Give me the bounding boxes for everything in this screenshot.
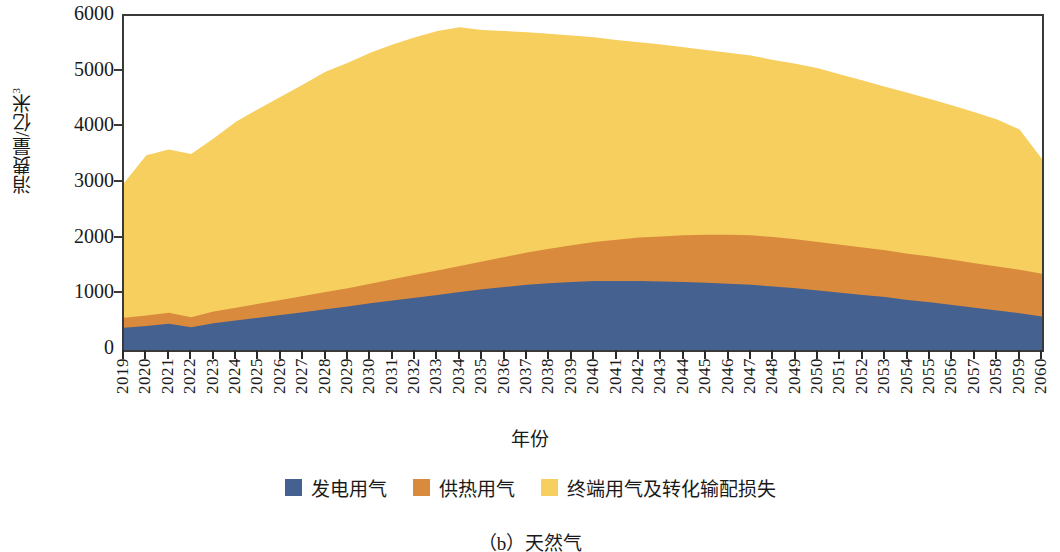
legend-swatch-icon	[285, 479, 302, 496]
y-axis-title: 消费量/亿米3	[6, 88, 32, 194]
x-tick-label: 2035	[472, 358, 489, 394]
x-tick-label: 2024	[226, 358, 243, 394]
figure-caption: （b）天然气	[0, 528, 1060, 552]
legend-swatch-icon	[413, 479, 430, 496]
y-tick-label: 1000	[52, 281, 114, 301]
x-tick-label: 2036	[495, 358, 512, 394]
x-tick-label: 2056	[942, 358, 959, 394]
x-tick-label: 2043	[651, 358, 668, 394]
x-tick-label: 2025	[248, 358, 265, 394]
legend-item[interactable]: 供热用气	[413, 474, 515, 501]
x-tick-label: 2020	[136, 358, 153, 394]
x-tick-label: 2033	[427, 358, 444, 394]
x-tick-label: 2046	[719, 358, 736, 394]
y-tick-label: 2000	[52, 226, 114, 246]
legend-item[interactable]: 发电用气	[285, 474, 387, 501]
x-tick-label: 2047	[741, 358, 758, 394]
x-tick-label: 2038	[539, 358, 556, 394]
x-tick-label: 2030	[360, 358, 377, 394]
x-tick-label: 2034	[450, 358, 467, 394]
y-tick-mark	[114, 180, 124, 182]
x-tick-label: 2019	[114, 358, 131, 394]
x-tick-label: 2050	[808, 358, 825, 394]
y-tick-mark	[114, 291, 124, 293]
x-tick-label: 2023	[204, 358, 221, 394]
x-tick-label: 2059	[1010, 358, 1027, 394]
x-tick-label: 2040	[584, 358, 601, 394]
x-tick-label: 2039	[562, 358, 579, 394]
x-tick-label: 2054	[898, 358, 915, 394]
x-axis-tick-labels: 2019202020212022202320242025202620272028…	[0, 358, 1060, 418]
x-tick-label: 2027	[293, 358, 310, 394]
y-tick-label: 6000	[52, 3, 114, 23]
y-tick-label: 3000	[52, 170, 114, 190]
x-tick-label: 2037	[517, 358, 534, 394]
legend-item[interactable]: 终端用气及转化输配损失	[541, 474, 776, 501]
legend-label: 供热用气	[439, 474, 515, 501]
x-tick-label: 2031	[383, 358, 400, 394]
chart-legend: 发电用气供热用气终端用气及转化输配损失	[0, 474, 1060, 501]
x-tick-label: 2042	[629, 358, 646, 394]
y-tick-label: 0	[52, 337, 114, 357]
x-tick-label: 2044	[674, 358, 691, 394]
x-tick-label: 2052	[853, 358, 870, 394]
x-tick-label: 2058	[987, 358, 1004, 394]
x-tick-label: 2032	[405, 358, 422, 394]
x-tick-label: 2057	[965, 358, 982, 394]
y-axis-tick-labels: 0100020003000400050006000	[48, 0, 114, 360]
y-tick-label: 4000	[52, 114, 114, 134]
x-tick-label: 2021	[159, 358, 176, 394]
x-tick-label: 2048	[763, 358, 780, 394]
x-tick-label: 2041	[607, 358, 624, 394]
legend-label: 终端用气及转化输配损失	[567, 474, 776, 501]
x-tick-label: 2028	[316, 358, 333, 394]
y-axis-title-superscript: 3	[10, 88, 22, 94]
x-tick-label: 2055	[920, 358, 937, 394]
stacked-area-chart	[124, 16, 1042, 350]
plot-area	[122, 14, 1044, 352]
y-tick-mark	[114, 236, 124, 238]
x-tick-label: 2053	[875, 358, 892, 394]
figure-natural-gas-consumption: 消费量/亿米3 0100020003000400050006000 201920…	[0, 0, 1060, 552]
y-axis-title-text: 消费量/亿米	[12, 94, 33, 194]
y-tick-mark	[114, 69, 124, 71]
legend-swatch-icon	[541, 479, 558, 496]
x-tick-label: 2051	[830, 358, 847, 394]
legend-label: 发电用气	[311, 474, 387, 501]
x-axis-title: 年份	[0, 424, 1060, 451]
y-tick-mark	[114, 124, 124, 126]
y-tick-label: 5000	[52, 59, 114, 79]
x-tick-label: 2045	[696, 358, 713, 394]
x-tick-label: 2026	[271, 358, 288, 394]
x-tick-label: 2022	[181, 358, 198, 394]
x-tick-label: 2049	[786, 358, 803, 394]
x-tick-label: 2029	[338, 358, 355, 394]
area-series-group	[124, 27, 1042, 350]
x-tick-label: 2060	[1032, 358, 1049, 394]
